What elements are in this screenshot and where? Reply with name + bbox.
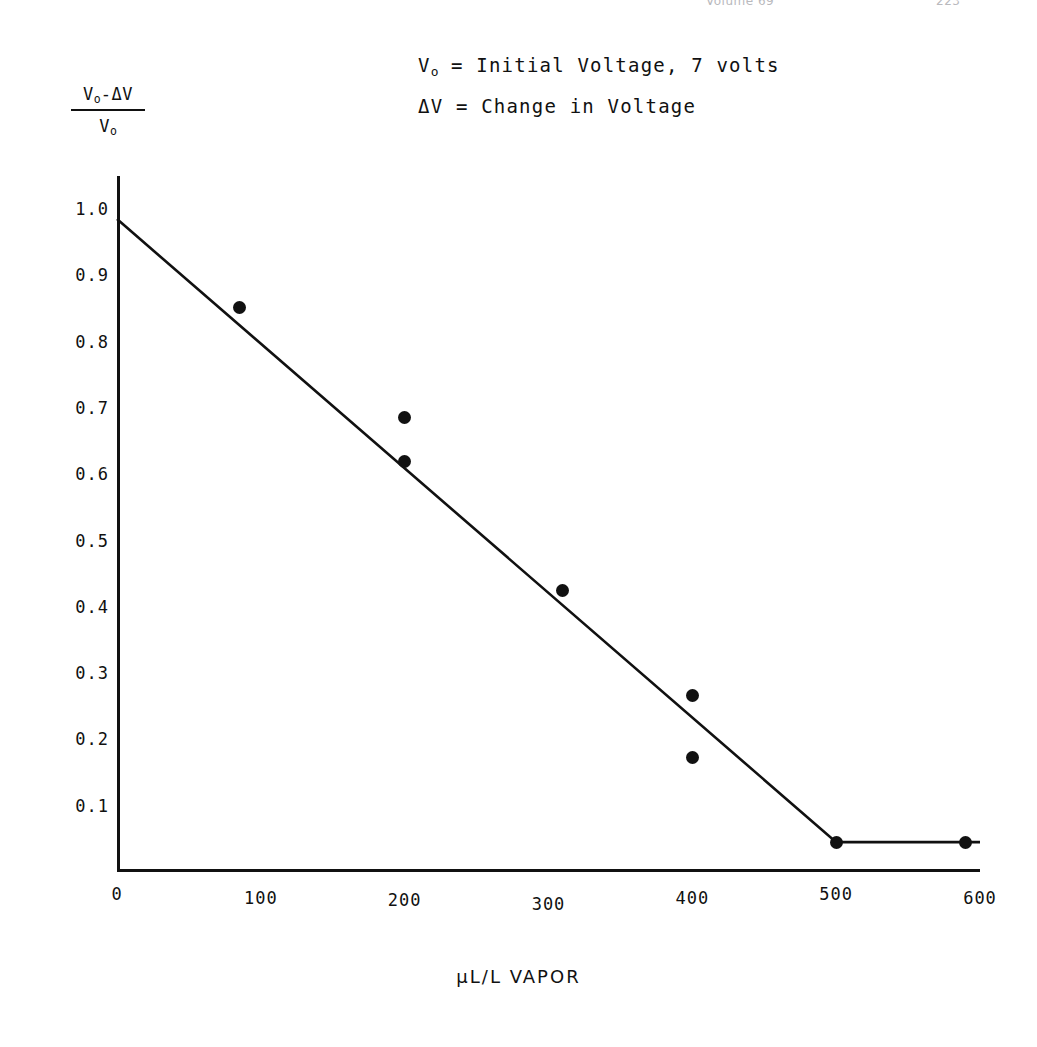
x-axis-tick-label: 500 bbox=[819, 884, 853, 904]
x-axis-tick-labels: 0100200300400500600 bbox=[117, 884, 1017, 924]
y-axis-label-numerator: Vo-ΔV bbox=[48, 84, 168, 109]
plot-area bbox=[117, 176, 980, 872]
data-point bbox=[959, 836, 972, 849]
y-axis-label-denominator: Vo bbox=[48, 116, 168, 138]
annotation-v-symbol: V bbox=[418, 54, 431, 76]
running-head-page-number: 223 bbox=[936, 0, 960, 8]
numerator-v-symbol: V bbox=[83, 84, 94, 104]
annotation-initial-voltage: Vo = Initial Voltage, 7 volts bbox=[418, 48, 780, 89]
y-axis-tick-label: 1.0 bbox=[49, 199, 109, 219]
x-axis-tick-label: 400 bbox=[675, 888, 709, 908]
x-axis-title-text: μL/L VAPOR bbox=[456, 966, 580, 987]
y-axis-tick-label: 0.7 bbox=[49, 398, 109, 418]
numerator-delta-v: -ΔV bbox=[101, 84, 133, 104]
denominator-v-subscript: o bbox=[110, 124, 117, 138]
numerator-v-subscript: o bbox=[94, 92, 101, 106]
fraction-bar bbox=[71, 109, 145, 111]
data-point bbox=[398, 455, 411, 468]
denominator-v-symbol: V bbox=[99, 116, 110, 136]
x-axis-tick-label: 600 bbox=[963, 888, 997, 908]
y-axis-tick-label: 0.8 bbox=[49, 332, 109, 352]
data-point bbox=[686, 689, 699, 702]
running-head: Volume 69 223 bbox=[700, 0, 1020, 12]
annotation-change-in-voltage: ΔV = Change in Voltage bbox=[418, 89, 780, 123]
figure-page: Volume 69 223 Vo = Initial Voltage, 7 vo… bbox=[0, 0, 1037, 1047]
fitted-line bbox=[117, 176, 980, 872]
x-axis-tick-label: 300 bbox=[532, 894, 566, 914]
x-axis-tick-label: 100 bbox=[244, 888, 278, 908]
y-axis-tick-label: 0.1 bbox=[49, 796, 109, 816]
y-axis-tick-label: 0.2 bbox=[49, 729, 109, 749]
data-point bbox=[233, 301, 246, 314]
y-axis-tick-labels: 0.10.20.30.40.50.60.70.80.91.0 bbox=[47, 176, 109, 872]
y-axis-label: Vo-ΔV Vo bbox=[48, 84, 168, 138]
y-axis-tick-label: 0.5 bbox=[49, 531, 109, 551]
x-axis-tick-label: 200 bbox=[388, 890, 422, 910]
data-point bbox=[830, 836, 843, 849]
annotation-initial-voltage-text: = Initial Voltage, 7 volts bbox=[438, 54, 779, 76]
y-axis-tick-label: 0.6 bbox=[49, 464, 109, 484]
y-axis-tick-label: 0.3 bbox=[49, 663, 109, 683]
y-axis-tick-label: 0.9 bbox=[49, 265, 109, 285]
running-head-volume: Volume 69 bbox=[706, 0, 774, 8]
y-axis-tick-label: 0.4 bbox=[49, 597, 109, 617]
x-axis-title: μL/L VAPOR bbox=[0, 966, 1037, 987]
x-axis-tick-label: 0 bbox=[111, 884, 122, 904]
chart-annotations: Vo = Initial Voltage, 7 volts ΔV = Chang… bbox=[418, 48, 780, 123]
